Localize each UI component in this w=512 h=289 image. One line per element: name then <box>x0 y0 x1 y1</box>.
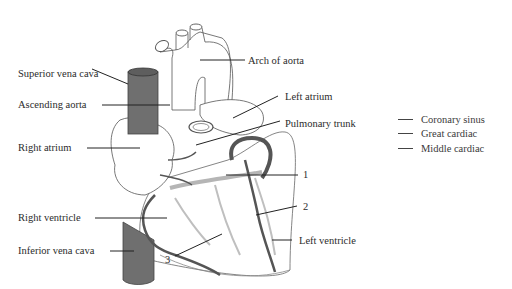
legend-dash <box>398 133 413 134</box>
legend-label: Great cardiac <box>421 128 477 139</box>
label-ascending-aorta: Ascending aorta <box>18 99 87 111</box>
label-right-ventricle: Right ventricle <box>18 212 81 224</box>
label-right-atrium: Right atrium <box>18 142 71 154</box>
label-left-ventricle: Left ventricle <box>299 235 356 247</box>
heart-diagram: Superior vena cava Ascending aorta Right… <box>0 0 512 289</box>
legend-label: Middle cardiac <box>421 143 484 154</box>
label-left-atrium: Left atrium <box>285 91 333 103</box>
number-1: 1 <box>303 169 308 181</box>
label-pulmonary-trunk: Pulmonary trunk <box>285 118 356 130</box>
label-superior-vena-cava: Superior vena cava <box>18 68 98 80</box>
label-inferior-vena-cava: Inferior vena cava <box>18 245 94 257</box>
number-2: 2 <box>303 201 308 213</box>
legend: Coronary sinus Great cardiac Middle card… <box>398 112 485 156</box>
legend-dash <box>398 148 413 149</box>
legend-label: Coronary sinus <box>421 114 485 125</box>
legend-item-great-cardiac: Great cardiac <box>398 127 485 142</box>
superior-vena-cava-shape <box>128 72 158 134</box>
legend-dash <box>398 119 413 120</box>
number-3: 3 <box>165 254 170 266</box>
legend-item-middle-cardiac: Middle cardiac <box>398 141 485 156</box>
legend-item-coronary-sinus: Coronary sinus <box>398 112 485 127</box>
label-arch-of-aorta: Arch of aorta <box>248 55 304 67</box>
